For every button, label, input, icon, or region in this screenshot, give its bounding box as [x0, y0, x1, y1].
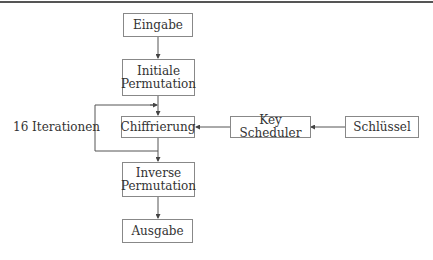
node-key-label: Schlüssel — [353, 121, 411, 134]
node-key-scheduler-label: Key Scheduler — [231, 114, 310, 140]
node-inverse-permutation: Inverse Permutation — [122, 162, 195, 197]
node-output-label: Ausgabe — [131, 225, 183, 238]
node-encryption: Chiffrierung — [121, 116, 195, 138]
loop-label: 16 Iterationen — [13, 120, 100, 134]
node-output: Ausgabe — [122, 219, 193, 243]
node-initial-permutation-line1: Initiale — [137, 65, 180, 78]
node-encryption-label: Chiffrierung — [121, 121, 196, 134]
node-input: Eingabe — [123, 13, 193, 37]
node-key-scheduler: Key Scheduler — [230, 116, 311, 138]
node-key: Schlüssel — [345, 116, 419, 138]
node-initial-permutation-line2: Permutation — [121, 78, 196, 91]
node-inverse-permutation-line2: Permutation — [121, 180, 196, 193]
node-input-label: Eingabe — [133, 19, 183, 32]
node-inverse-permutation-line1: Inverse — [136, 167, 181, 180]
node-initial-permutation: Initiale Permutation — [122, 59, 195, 96]
